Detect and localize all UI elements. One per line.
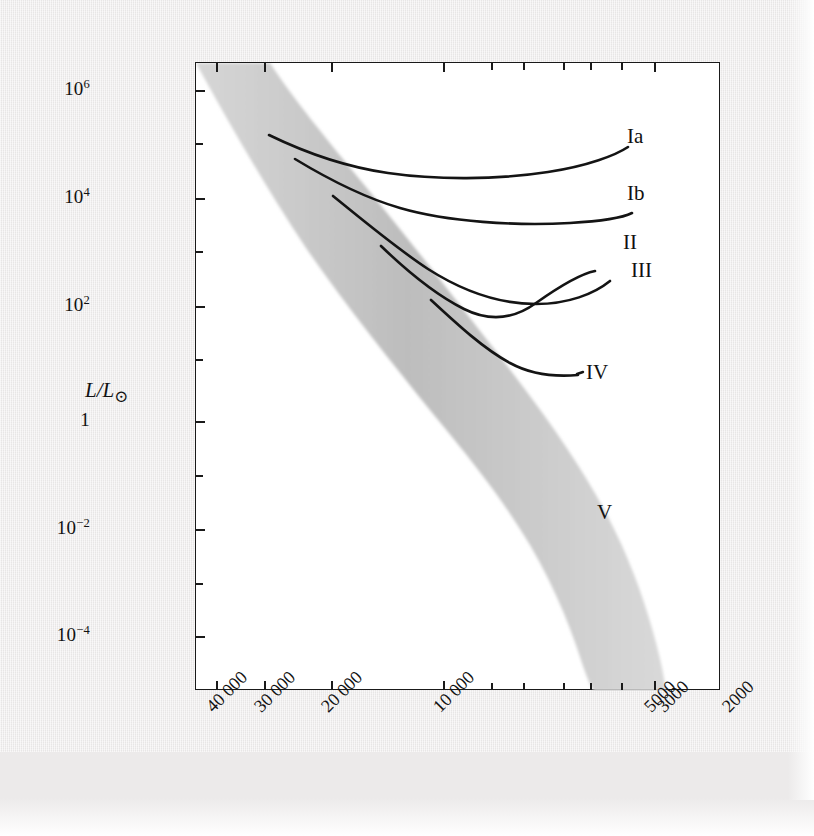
ytick-label-1e4: 104 xyxy=(64,186,90,208)
xtick-minor-7000-bottom xyxy=(563,683,565,690)
xtick-major-20000-top xyxy=(331,63,333,72)
ytick-minor-1e-3 xyxy=(196,583,203,585)
ytick-label-1e-4: 10−4 xyxy=(57,624,90,646)
ytick-minor-1e3 xyxy=(196,251,203,253)
xtick-minor-7000-top xyxy=(563,63,565,70)
xtick-minor-8000-bottom xyxy=(523,683,525,690)
paper-bottom-fade xyxy=(0,752,814,836)
chart-canvas xyxy=(196,63,721,691)
sun-symbol-icon: ⊙ xyxy=(114,387,128,406)
paper-right-fade xyxy=(788,0,814,800)
ytick-label-1e6: 106 xyxy=(64,78,90,100)
xtick-minor-6000-bottom xyxy=(621,683,623,690)
xtick-major-30000-top xyxy=(264,63,266,72)
ytick-major-1e4 xyxy=(196,198,205,200)
class-label-III: III xyxy=(631,258,652,283)
class-label-V: V xyxy=(597,500,612,525)
ytick-major-1e6 xyxy=(196,90,205,92)
figure-page: 106 104 102 1 10−2 10−4 L/L⊙ 40 000 30 0… xyxy=(0,0,814,836)
ytick-major-1e-2 xyxy=(196,529,205,531)
xtick-minor-6500-bottom xyxy=(590,683,592,690)
class-label-IV: IV xyxy=(586,360,608,385)
xtick-minor-9000-top xyxy=(491,63,493,70)
xtick-minor-8000-top xyxy=(523,63,525,70)
ytick-minor-1e1 xyxy=(196,359,203,361)
ytick-major-1e2 xyxy=(196,306,205,308)
ytick-major-1 xyxy=(196,421,205,423)
xtick-major-5000-top xyxy=(654,63,656,72)
ytick-label-1e-2: 10−2 xyxy=(57,517,90,539)
ytick-label-1: 1 xyxy=(80,409,90,431)
xtick-minor-6000-top xyxy=(621,63,623,70)
ytick-major-1e-4 xyxy=(196,636,205,638)
plot-area xyxy=(195,62,720,690)
y-axis-label: L/L⊙ xyxy=(85,378,128,403)
xtick-major-10000-top xyxy=(443,63,445,72)
ytick-minor-1e5 xyxy=(196,143,203,145)
xtick-minor-9000-bottom xyxy=(491,683,493,690)
xtick-minor-6500-top xyxy=(590,63,592,70)
xtick-major-40000-top xyxy=(216,63,218,72)
ytick-label-1e2: 102 xyxy=(64,294,90,316)
class-label-Ia: Ia xyxy=(627,124,643,149)
class-label-Ib: Ib xyxy=(627,181,645,206)
class-label-II: II xyxy=(623,230,637,255)
ytick-minor-1e-1 xyxy=(196,475,203,477)
